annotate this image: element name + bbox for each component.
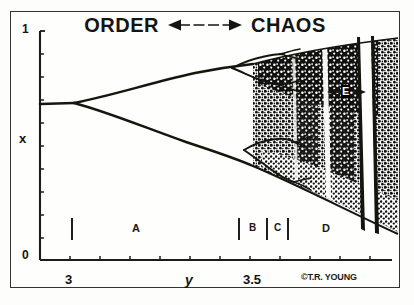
x-tick-label-3-5: 3.5 [243, 272, 261, 287]
x-tick-label-3: 3 [65, 272, 72, 287]
y-axis-min-label: 0 [22, 248, 29, 262]
region-label-c: C [274, 222, 281, 233]
region-label-d: D [322, 222, 330, 234]
branch-period2-upper [74, 64, 253, 103]
y-axis [40, 31, 45, 260]
x-axis-title: y [185, 272, 193, 288]
y-axis-max-label: 1 [22, 22, 29, 36]
branch-fixed-point [40, 103, 74, 104]
region-label-a: A [132, 222, 140, 234]
x-axis [40, 256, 392, 261]
plot-canvas [0, 0, 414, 305]
region-label-e: E [341, 85, 350, 98]
annotation-e: E [327, 85, 367, 101]
chaotic-band [250, 34, 400, 239]
bifurcation-figure: ORDER CHAOS [0, 0, 414, 305]
copyright-notice: ©T.R. YOUNG [301, 272, 357, 282]
y-axis-title: x [19, 131, 26, 146]
branch-period2-lower [74, 103, 253, 166]
region-label-b: B [249, 222, 256, 233]
